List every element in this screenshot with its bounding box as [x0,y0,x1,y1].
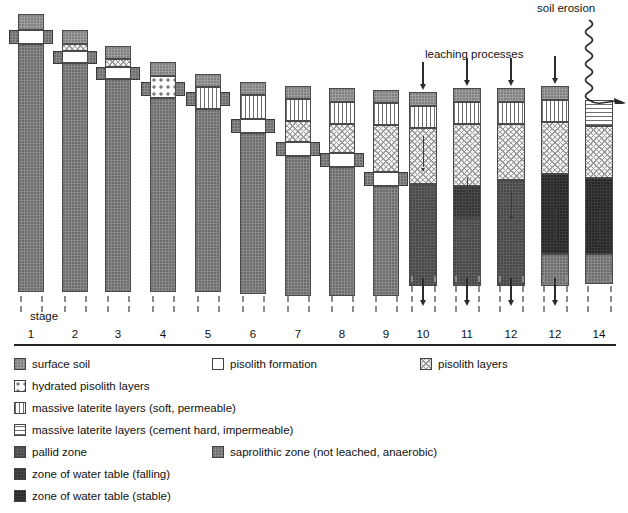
legend-label-water-table-falling: zone of water table (falling) [32,468,170,480]
legend: surface soilpisolith formationpisolith l… [0,352,628,513]
layer-saprolith [195,109,221,292]
column-continuation-dash [455,276,457,312]
stage-number-label: 4 [144,328,182,340]
layer-soil [285,86,311,99]
legend-label-surface-soil: surface soil [32,358,90,370]
layer-lat-soft [373,103,399,125]
layer-pisolayer [541,122,569,174]
stage-number-label: 3 [99,328,137,340]
column-continuation-dash [587,276,589,312]
stage-column-8 [329,88,355,276]
stage-column-14 [585,100,613,276]
legend-label-water-table-stable: zone of water table (stable) [32,490,171,502]
legend-item-pisolith-layers: pisolith layers [420,358,508,370]
stage-column-9 [373,90,399,276]
soil-erosion-arrow-icon [583,18,628,104]
legend-item-pallid-zone: pallid zone [14,446,87,458]
column-continuation-dash [478,276,480,312]
layer-soil [105,46,131,59]
arrow-below [418,278,428,306]
stage-number-label: 9 [367,328,405,340]
layer-pisoform [329,153,355,167]
axis-title-stage: stage [30,310,58,322]
legend-swatch-water-table-falling [14,468,26,480]
legend-swatch-water-table-stable [14,490,26,502]
layer-lat-soft [453,102,481,124]
legend-swatch-pisolith-layers [420,358,432,370]
legend-item-water-table-falling: zone of water table (falling) [14,468,170,480]
layer-pallid [453,218,481,286]
legend-item-hydrated-pisolith: hydrated pisolith layers [14,380,150,392]
stage-column-6 [240,82,266,276]
arrow-leach-top [550,56,560,84]
stage-column-7 [285,86,311,276]
layer-saprolith [62,63,88,292]
stage-number-label: 2 [56,328,94,340]
legend-swatch-pisolith-formation [212,358,224,370]
layer-soil [329,88,355,102]
column-continuation-dash [610,276,612,312]
layer-soil [541,86,569,100]
stage-number-label: 7 [279,328,317,340]
annotation-soil-erosion: soil erosion [537,2,595,14]
layer-lat-soft [240,95,266,119]
column-continuation-dash [543,276,545,312]
stage-column-12b [541,86,569,276]
arrow-leach-top [462,58,472,86]
legend-label-pisolith-formation: pisolith formation [230,358,317,370]
legend-swatch-laterite-soft [14,402,26,414]
arrow-inner-thin [506,190,516,220]
legend-label-pisolith-layers: pisolith layers [438,358,508,370]
layer-soil [240,82,266,95]
stage-column-5 [195,74,221,276]
arrow-inner-thin [462,178,472,210]
legend-item-laterite-soft: massive laterite layers (soft, permeable… [14,402,236,414]
layer-lat-soft [195,87,221,109]
stage-number-label: 10 [403,328,443,340]
arrow-inner-thin [550,208,560,242]
layer-soil [62,30,88,44]
stage-column-12 [497,88,525,276]
layer-soil [18,14,44,30]
layer-saprolith [150,98,176,292]
legend-label-laterite-hard: massive laterite layers (cement hard, im… [32,424,293,436]
layer-pisoform [285,142,311,156]
arrow-below [462,278,472,306]
stage-column-3 [105,46,131,276]
legend-item-water-table-stable: zone of water table (stable) [14,490,171,502]
stage-column-1 [18,14,44,276]
arrow-inner-thin [594,210,604,244]
layer-pisolayer [329,124,355,153]
layer-saprolith [329,167,355,296]
layer-pisolayer [285,121,311,142]
layer-pisolayer [497,124,525,180]
stage-number-label: 12 [491,328,531,340]
stage-number-label: 11 [447,328,487,340]
layer-pisoform [105,67,131,79]
legend-swatch-laterite-hard [14,424,26,436]
layer-pisoform [373,172,399,186]
column-continuation-dash [566,276,568,312]
legend-item-laterite-hard: massive laterite layers (cement hard, im… [14,424,293,436]
legend-swatch-surface-soil [14,358,26,370]
layer-saprolith [240,133,266,294]
layer-lat-soft [497,102,525,124]
layer-hydpiso [150,76,176,98]
layer-soil [409,92,437,106]
layer-pisolayer [62,44,88,51]
layer-soil [453,88,481,102]
layer-soil [373,90,399,103]
stage-number-label: 1 [12,328,50,340]
legend-label-laterite-soft: massive laterite layers (soft, permeable… [32,402,236,414]
legend-label-saprolithic-zone: saprolithic zone (not leached, anaerobic… [230,446,437,458]
column-continuation-dash [411,276,413,312]
layer-saprolith [585,254,613,284]
stage-number-label: 8 [323,328,361,340]
arrow-leach-top [418,62,428,90]
legend-item-pisolith-formation: pisolith formation [212,358,317,370]
layer-pisolayer [585,126,613,178]
arrow-below [550,278,560,306]
stage-number-label: 12 [535,328,575,340]
layer-lat-soft [329,102,355,124]
stage-number-label: 6 [234,328,272,340]
